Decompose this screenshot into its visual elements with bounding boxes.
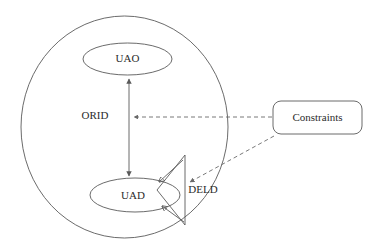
orid-label: ORID xyxy=(82,109,109,121)
deld-to-uad-upper-arrow xyxy=(159,160,183,182)
uad-label: UAD xyxy=(121,189,145,201)
constraints-label: Constraints xyxy=(292,111,342,123)
deld-label: DELD xyxy=(188,183,217,195)
deld-to-uad-lower-arrow xyxy=(162,206,184,222)
uao-label: UAO xyxy=(116,52,140,64)
diagram-root: UAO UAD ORID DELD Constraints xyxy=(0,0,370,252)
deld-triangle[interactable] xyxy=(157,155,185,225)
constraints-to-deld-dashed-arrow xyxy=(190,136,274,182)
diagram-canvas: UAO UAD ORID DELD Constraints xyxy=(0,0,370,252)
boundary-ellipse xyxy=(21,16,228,238)
